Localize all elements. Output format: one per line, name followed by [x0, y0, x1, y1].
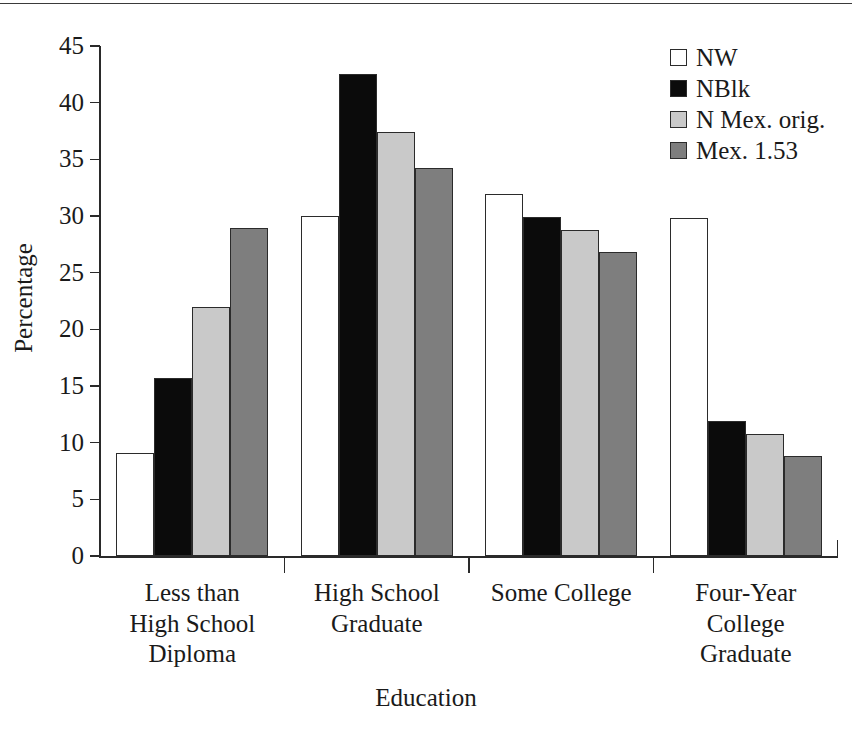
category-label-line: Less than — [100, 578, 285, 609]
bar-chart-figure: 051015202530354045 Less thanHigh SchoolD… — [0, 0, 852, 735]
x-axis-category-label: High SchoolGraduate — [285, 578, 470, 639]
y-axis-tick-label: 10 — [32, 430, 84, 455]
bar — [415, 168, 453, 556]
bar — [192, 307, 230, 556]
bar — [230, 228, 268, 556]
bar — [523, 217, 561, 556]
legend-item-label: N Mex. orig. — [696, 107, 825, 132]
bar — [708, 421, 746, 556]
x-axis-separator-tick — [468, 557, 470, 573]
legend-item: N Mex. orig. — [670, 104, 850, 135]
category-label-line: College — [654, 609, 839, 640]
black-square-swatch — [670, 80, 687, 97]
y-axis-tick-label: 35 — [32, 146, 84, 171]
legend-item: NBlk — [670, 73, 850, 104]
y-axis-title: Percentage — [10, 208, 38, 388]
bar — [339, 74, 377, 556]
bar — [116, 453, 154, 556]
legend-item-label: Mex. 1.53 — [696, 138, 798, 163]
category-label-line: High School — [100, 609, 285, 640]
x-axis-separator-tick — [284, 557, 286, 573]
legend-item-label: NBlk — [696, 76, 750, 101]
light-gray-square-swatch — [670, 111, 687, 128]
legend-item: NW — [670, 42, 850, 73]
category-label-line: Some College — [469, 578, 654, 609]
y-axis-tick-label: 15 — [32, 373, 84, 398]
y-axis-tick-label: 20 — [32, 316, 84, 341]
chart-legend: NWNBlkN Mex. orig.Mex. 1.53 — [670, 42, 850, 166]
white-square-swatch — [670, 49, 687, 66]
y-axis-tick-label: 30 — [32, 203, 84, 228]
y-axis-tick-label: 25 — [32, 260, 84, 285]
bar — [377, 132, 415, 556]
bar — [746, 434, 784, 556]
bar — [784, 456, 822, 556]
medium-gray-square-swatch — [670, 142, 687, 159]
category-label-line: Diploma — [100, 639, 285, 670]
x-axis-category-label: Some College — [469, 578, 654, 609]
bar — [485, 194, 523, 556]
bar — [599, 252, 637, 556]
bar — [301, 216, 339, 556]
x-axis-category-label: Four-YearCollegeGraduate — [654, 578, 839, 670]
category-label-line: Four-Year — [654, 578, 839, 609]
bar — [670, 218, 708, 556]
y-axis-tick-label: 0 — [32, 543, 84, 568]
x-axis-title: Education — [0, 684, 852, 712]
y-axis-tick-label: 40 — [32, 90, 84, 115]
category-label-line: Graduate — [654, 639, 839, 670]
category-label-line: Graduate — [285, 609, 470, 640]
x-axis-separator-tick — [653, 557, 655, 573]
y-axis-tick-label: 5 — [32, 486, 84, 511]
bar — [561, 230, 599, 556]
category-label-line: High School — [285, 578, 470, 609]
legend-item: Mex. 1.53 — [670, 135, 850, 166]
x-axis-category-label: Less thanHigh SchoolDiploma — [100, 578, 285, 670]
page-top-rule — [0, 3, 852, 4]
y-axis-tick-label: 45 — [32, 33, 84, 58]
bar — [154, 378, 192, 556]
legend-item-label: NW — [696, 45, 738, 70]
